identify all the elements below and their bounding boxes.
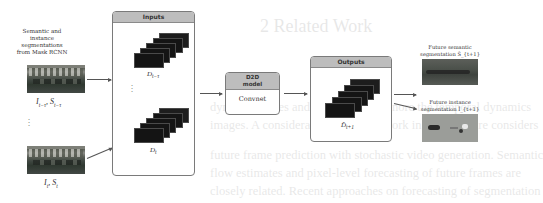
inputs-panel-title: Inputs bbox=[113, 12, 194, 23]
background-text-line: future frame prediction with stochastic … bbox=[210, 148, 543, 163]
semantic-result-caption: Future semantic segmentation Ŝ_{t+1} bbox=[415, 44, 485, 57]
arrow-icon bbox=[200, 93, 222, 94]
arrow-icon bbox=[87, 147, 112, 158]
input-frame-now-label: It, St bbox=[44, 178, 58, 189]
feature-frame bbox=[134, 53, 164, 68]
arrow-icon bbox=[87, 79, 111, 80]
input-frame-past-image bbox=[27, 65, 85, 93]
feature-frame bbox=[325, 103, 355, 118]
d2d-model-box: D2D model Convnet bbox=[225, 72, 280, 115]
d2d-title-line: D2D bbox=[226, 74, 279, 81]
instance-result-caption: Future instance segmentation Î_{t+1} bbox=[415, 99, 485, 112]
background-text-line: closely related. Recent approaches on fo… bbox=[210, 184, 540, 199]
background-heading: 2 Related Work bbox=[260, 16, 372, 37]
caption-line: Semantic and bbox=[14, 28, 70, 35]
source-caption: Semantic and instance segmentations from… bbox=[14, 28, 70, 56]
output-stack-label: D̂t+1 bbox=[341, 121, 354, 130]
caption-line: segmentation Î_{t+1} bbox=[415, 106, 485, 113]
input-stack-past-label: Dt−τ bbox=[147, 70, 159, 79]
background-text-line: flow estimates and pixel-level forecasti… bbox=[210, 166, 521, 181]
arrow-icon bbox=[284, 93, 307, 94]
ellipsis-icon: ··· bbox=[130, 84, 134, 93]
input-stack-now-label: Dt bbox=[150, 146, 157, 155]
ellipsis-icon: ··· bbox=[27, 118, 31, 127]
feature-frame bbox=[134, 128, 164, 143]
input-frame-past-label: It−τ, St−τ bbox=[36, 97, 61, 108]
d2d-model-body: Convnet bbox=[226, 90, 279, 103]
future-instance-segmentation-image bbox=[422, 114, 478, 142]
outputs-panel-title: Outputs bbox=[311, 57, 391, 68]
inputs-panel: Inputs Dt−τ ··· Dt bbox=[112, 11, 195, 176]
input-frame-now-image bbox=[27, 146, 85, 174]
outputs-panel: Outputs D̂t+1 bbox=[310, 56, 392, 142]
caption-line: segmentations bbox=[14, 42, 70, 49]
d2d-title-line: model bbox=[226, 81, 279, 88]
caption-line: from Mask RCNN bbox=[14, 49, 70, 56]
arrow-icon bbox=[394, 94, 416, 95]
caption-line: instance bbox=[14, 35, 70, 42]
caption-line: segmentation Ŝ_{t+1} bbox=[415, 51, 485, 58]
future-semantic-segmentation-image bbox=[422, 59, 478, 85]
d2d-model-title: D2D model bbox=[226, 73, 279, 90]
